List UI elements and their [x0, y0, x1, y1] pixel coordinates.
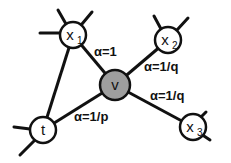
edge-stub	[14, 127, 30, 129]
node-label: x	[186, 118, 194, 135]
edge-stub	[154, 16, 161, 29]
edge-stub	[177, 18, 188, 30]
node-x1: x1	[60, 22, 86, 48]
node-subscript: 2	[172, 40, 178, 51]
edge-weight-label: α=1/p	[74, 109, 108, 124]
node-label: x	[66, 26, 74, 43]
edge-weight-label: α=1/q	[144, 59, 178, 74]
edge-weight-label: α=1	[94, 44, 117, 59]
edge-stub	[20, 141, 34, 155]
edge-weight-label: α=1/q	[150, 88, 184, 103]
node-x3: x3	[180, 114, 206, 140]
node-label: v	[111, 76, 119, 93]
node-v: v	[100, 70, 130, 100]
node-x2: x2	[155, 27, 181, 53]
diagram-canvas: x1x2x3tvα=1α=1/qα=1/qα=1/p	[0, 0, 231, 163]
node-label: x	[161, 31, 169, 48]
node-t: t	[30, 117, 56, 143]
node-subscript: 1	[77, 35, 83, 46]
edge-stub	[58, 10, 66, 24]
graph-diagram: x1x2x3tvα=1α=1/qα=1/qα=1/p	[0, 0, 231, 163]
edge-stub	[82, 12, 92, 24]
node-subscript: 3	[197, 127, 203, 138]
